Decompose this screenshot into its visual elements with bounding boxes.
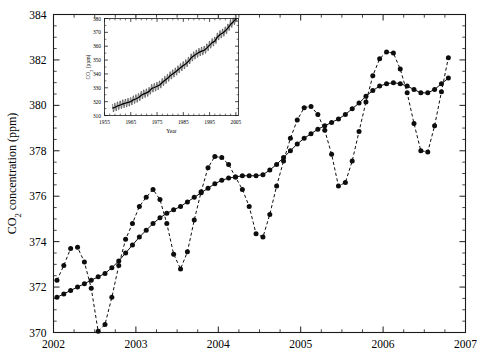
- y-tick-label: 382: [29, 54, 47, 66]
- data-point-marker: [418, 148, 423, 153]
- inset-y-tick-label: 330: [93, 85, 101, 91]
- data-point-marker: [322, 123, 327, 128]
- x-tick-label: 2003: [124, 338, 147, 350]
- data-point-marker: [199, 190, 204, 195]
- data-point-marker: [343, 180, 348, 185]
- data-point-marker: [260, 235, 265, 240]
- data-point-marker: [432, 87, 437, 92]
- inset-y-tick-label: 340: [93, 71, 101, 77]
- inset-y-tick-label: 360: [93, 43, 101, 49]
- data-point-marker: [116, 263, 121, 268]
- inset-y-tick-label: 310: [93, 113, 101, 119]
- data-point-marker: [260, 172, 265, 177]
- x-tick-label: 2006: [372, 338, 395, 350]
- data-point-marker: [68, 288, 73, 293]
- data-point-marker: [82, 260, 87, 265]
- data-point-marker: [405, 90, 410, 95]
- data-point-marker: [432, 123, 437, 128]
- data-point-marker: [240, 187, 245, 192]
- inset-y-tick-label: 380: [93, 16, 101, 22]
- inset-x-tick-label: 1965: [125, 119, 136, 125]
- data-point-marker: [75, 285, 80, 290]
- data-point-marker: [350, 106, 355, 111]
- data-point-marker: [137, 204, 142, 209]
- data-point-marker: [295, 141, 300, 146]
- data-point-marker: [171, 252, 176, 257]
- inset-x-tick-label: 1995: [204, 119, 215, 125]
- data-point-marker: [157, 197, 162, 202]
- data-point-marker: [130, 243, 135, 248]
- data-point-marker: [130, 221, 135, 226]
- data-point-marker: [178, 204, 183, 209]
- data-point-marker: [343, 112, 348, 117]
- data-point-marker: [151, 221, 156, 226]
- data-point-marker: [281, 155, 286, 160]
- data-point-marker: [439, 89, 444, 94]
- y-tick-label: 376: [29, 190, 47, 202]
- data-point-marker: [446, 76, 451, 81]
- data-point-marker: [103, 271, 108, 276]
- x-tick-label: 2004: [207, 338, 230, 350]
- y-tick-label: 372: [29, 281, 47, 293]
- data-point-marker: [219, 155, 224, 160]
- inset-x-tick-label: 1955: [99, 119, 110, 125]
- x-tick-label: 2002: [42, 338, 65, 350]
- data-point-marker: [309, 104, 314, 109]
- data-point-marker: [350, 159, 355, 164]
- data-point-marker: [267, 168, 272, 173]
- inset-x-axis-title: Year: [166, 128, 176, 134]
- data-point-marker: [391, 80, 396, 85]
- data-point-marker: [384, 81, 389, 86]
- data-point-marker: [412, 121, 417, 126]
- data-point-marker: [295, 118, 300, 123]
- inset-y-tick-label: 320: [93, 99, 101, 105]
- data-point-marker: [370, 73, 375, 78]
- data-point-marker: [61, 291, 66, 296]
- data-point-marker: [226, 162, 231, 167]
- data-point-marker: [185, 199, 190, 204]
- data-point-marker: [288, 148, 293, 153]
- data-point-marker: [398, 81, 403, 86]
- data-point-marker: [254, 231, 259, 236]
- data-point-marker: [274, 162, 279, 167]
- data-point-marker: [315, 112, 320, 117]
- inset-y-axis-title: CO2 (ppm): [85, 54, 94, 79]
- data-point-marker: [123, 251, 128, 256]
- data-point-marker: [75, 245, 80, 250]
- data-point-marker: [329, 152, 334, 157]
- y-tick-labels: 370372374376378380382384: [29, 9, 47, 339]
- data-point-marker: [96, 274, 101, 279]
- y-tick-label: 378: [29, 145, 47, 157]
- data-point-marker: [329, 120, 334, 125]
- data-point-marker: [357, 129, 362, 134]
- data-point-marker: [405, 84, 410, 89]
- data-point-marker: [322, 128, 327, 133]
- data-point-marker: [418, 90, 423, 95]
- data-point-marker: [171, 207, 176, 212]
- data-point-marker: [226, 176, 231, 181]
- data-point-marker: [233, 174, 238, 179]
- data-point-marker: [185, 249, 190, 254]
- data-point-marker: [315, 127, 320, 132]
- data-point-marker: [212, 181, 217, 186]
- y-tick-label: 370: [29, 327, 47, 339]
- figure-root: 2002200320042005200620073703723743763783…: [0, 0, 485, 363]
- data-point-marker: [137, 235, 142, 240]
- x-tick-label: 2007: [454, 338, 477, 350]
- data-point-marker: [151, 187, 156, 192]
- data-point-marker: [391, 51, 396, 56]
- inset-y-tick-label: 350: [93, 57, 101, 63]
- x-tick-label: 2005: [289, 338, 312, 350]
- data-point-marker: [192, 218, 197, 223]
- data-point-marker: [219, 178, 224, 183]
- data-point-marker: [370, 88, 375, 93]
- data-point-marker: [206, 165, 211, 170]
- y-axis-title-text: CO2 concentration (ppm): [5, 113, 23, 235]
- data-point-marker: [61, 263, 66, 268]
- data-point-marker: [309, 131, 314, 136]
- data-point-marker: [157, 215, 162, 220]
- data-point-marker: [212, 154, 217, 159]
- data-point-marker: [363, 99, 368, 104]
- data-point-marker: [123, 237, 128, 242]
- data-point-marker: [357, 101, 362, 106]
